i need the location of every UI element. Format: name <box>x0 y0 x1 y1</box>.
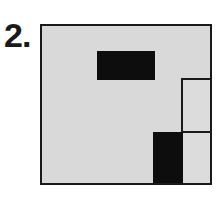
right-lower-box <box>181 131 212 185</box>
grid-square <box>40 24 212 185</box>
right-upper-box <box>181 78 212 133</box>
bottom-black-column <box>153 132 183 183</box>
figure-label: 2. <box>4 18 30 52</box>
top-black-rectangle <box>97 51 155 80</box>
